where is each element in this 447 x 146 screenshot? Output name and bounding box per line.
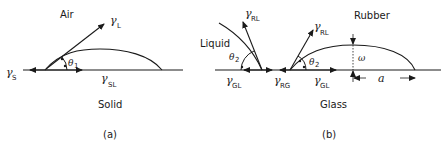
gamma-sl-symbol: γ xyxy=(101,72,108,85)
solid-label: Solid xyxy=(98,99,122,110)
contact-angle-diagram: Air γ L θ 1 γ S γ SL Solid (a) xyxy=(0,0,447,146)
panel-a: Air γ L θ 1 γ S γ SL Solid (a) xyxy=(6,9,183,140)
theta1-subscript: 1 xyxy=(74,62,78,70)
caption-b: (b) xyxy=(322,129,336,140)
gamma-gl-left-subscript: GL xyxy=(232,82,241,90)
liquid-label: Liquid xyxy=(200,38,230,49)
gamma-rl-left-subscript: RL xyxy=(251,15,260,23)
gamma-l-symbol: γ xyxy=(110,14,117,27)
air-label: Air xyxy=(60,9,75,20)
glass-label: Glass xyxy=(320,99,347,110)
rubber-label: Rubber xyxy=(354,10,391,21)
panel-b: ω a γ RL Liquid θ 2 γ RL Rubber θ 2 γ GL… xyxy=(200,7,441,140)
gamma-s-subscript: S xyxy=(12,74,17,82)
gamma-gl-right-subscript: GL xyxy=(320,82,329,90)
gamma-l-subscript: L xyxy=(117,22,121,30)
omega-label: ω xyxy=(358,53,366,63)
theta2-left-subscript: 2 xyxy=(235,56,239,64)
gamma-rl-right-subscript: RL xyxy=(320,29,329,37)
caption-a: (a) xyxy=(103,129,117,140)
gamma-rl-left-vector xyxy=(243,22,262,70)
gamma-sl-subscript: SL xyxy=(108,81,116,89)
theta2-right-subscript: 2 xyxy=(315,61,319,69)
gamma-rg-subscript: RG xyxy=(280,82,290,90)
radius-label: a xyxy=(378,72,385,85)
